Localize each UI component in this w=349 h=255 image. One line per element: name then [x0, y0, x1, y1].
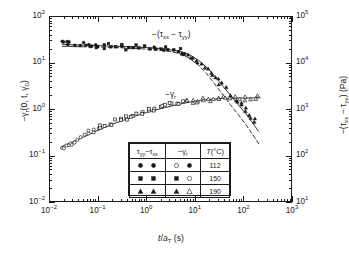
legend-header-temperature: T(°C)	[201, 144, 230, 159]
y-right-tick-label: 105	[296, 12, 320, 20]
x-minor-tick-top	[83, 16, 84, 19]
y-minor-tick-left	[49, 73, 52, 74]
x-minor-tick-top	[72, 16, 73, 19]
y-minor-tick-left	[49, 26, 52, 27]
legend-stress-symbols	[130, 172, 166, 185]
legend-row: 150	[130, 172, 230, 185]
y-minor-tick-right	[289, 21, 292, 22]
y-major-tick-left	[49, 16, 55, 17]
legend-gamma-symbols	[165, 172, 201, 185]
x-minor-tick	[83, 199, 84, 202]
y-minor-tick-right	[289, 87, 292, 88]
x-minor-tick-top	[193, 16, 194, 19]
x-minor-tick-top	[169, 16, 170, 19]
series--(τ_xx - τ_yy), 112 °C	[61, 40, 98, 49]
y-minor-tick-right	[289, 111, 292, 112]
x-tick-label: 10−2	[35, 207, 63, 215]
x-minor-tick	[229, 199, 230, 202]
x-minor-tick-top	[112, 16, 113, 19]
legend-gamma-symbols	[165, 185, 201, 198]
x-minor-tick-top	[281, 16, 282, 19]
x-minor-tick-top	[141, 16, 142, 19]
curve-model-solid-upper	[62, 44, 258, 131]
legend-gamma-symbols	[165, 159, 201, 172]
y-left-tick-label: 10−2	[23, 198, 45, 206]
x-minor-tick	[175, 199, 176, 202]
x-minor-tick-top	[161, 16, 162, 19]
y-minor-tick-left	[49, 81, 52, 82]
x-minor-tick	[87, 199, 88, 202]
x-minor-tick	[267, 199, 268, 202]
y-right-tick-label: 104	[296, 58, 320, 66]
y-minor-tick-left	[49, 95, 52, 96]
x-minor-tick-top	[190, 16, 191, 19]
x-major-tick-top	[146, 16, 147, 22]
legend-temperature-value: 190	[201, 185, 230, 198]
y-minor-tick-right	[289, 18, 292, 19]
x-minor-tick-top	[224, 16, 225, 19]
x-major-tick-top	[98, 16, 99, 22]
x-minor-tick-top	[241, 16, 242, 19]
y-major-tick-left	[49, 202, 55, 203]
y-minor-tick-right	[289, 119, 292, 120]
legend-header-temperature-text: T(°C)	[206, 147, 224, 156]
x-minor-tick	[161, 199, 162, 202]
x-minor-tick	[233, 199, 234, 202]
x-minor-tick	[72, 199, 73, 202]
x-minor-tick	[281, 199, 282, 202]
legend-stress-symbols	[130, 159, 166, 172]
x-minor-tick-top	[93, 16, 94, 19]
y-major-tick-right	[286, 63, 292, 64]
y-minor-tick-left	[49, 40, 52, 41]
y-minor-tick-right	[289, 142, 292, 143]
y-minor-tick-right	[289, 95, 292, 96]
y-minor-tick-right	[289, 30, 292, 31]
y-minor-tick-left	[49, 158, 52, 159]
x-minor-tick-top	[184, 16, 185, 19]
x-minor-tick-top	[87, 16, 88, 19]
series--(τ_xx - τ_yy), 190 °C	[180, 52, 257, 124]
x-minor-tick	[241, 199, 242, 202]
annotation-recoverable-strain-text: −γr	[165, 89, 176, 99]
y-minor-tick-right	[289, 26, 292, 27]
x-minor-tick	[93, 199, 94, 202]
x-minor-tick	[193, 199, 194, 202]
x-minor-tick	[190, 199, 191, 202]
x-minor-tick-top	[90, 16, 91, 19]
legend-header-row: τyy−τxx −γr T(°C)	[130, 144, 230, 159]
y-minor-tick-left	[49, 35, 52, 36]
x-major-tick	[292, 196, 293, 202]
x-major-tick	[98, 196, 99, 202]
x-minor-tick-top	[95, 16, 96, 19]
x-major-tick-top	[243, 16, 244, 22]
x-minor-tick-top	[229, 16, 230, 19]
y-major-tick-left	[49, 63, 55, 64]
legend-header-gamma-text: −γr	[178, 147, 188, 156]
y-major-tick-left	[49, 156, 55, 157]
y-right-title-text: −(τxx − τyy) (Pa)	[338, 76, 348, 134]
y-right-tick-label: 101	[296, 198, 320, 206]
y-minor-tick-right	[289, 114, 292, 115]
x-minor-tick	[236, 199, 237, 202]
y-minor-tick-right	[289, 158, 292, 159]
y-minor-tick-left	[49, 87, 52, 88]
y-axis-right-title: −(τxx − τyy) (Pa)	[338, 45, 348, 165]
y-minor-tick-right	[289, 160, 292, 161]
x-minor-tick	[224, 199, 225, 202]
x-tick-label: 101	[181, 207, 209, 215]
annotation-recoverable-strain: −γr	[165, 89, 176, 99]
y-minor-tick-right	[289, 116, 292, 117]
y-minor-tick-left	[49, 114, 52, 115]
y-major-tick-left	[49, 109, 55, 110]
legend-temperature-value: 112	[201, 159, 230, 172]
x-minor-tick-top	[277, 16, 278, 19]
x-minor-tick	[144, 199, 145, 202]
x-minor-tick	[141, 199, 142, 202]
y-minor-tick-right	[289, 81, 292, 82]
y-minor-tick-left	[49, 166, 52, 167]
y-minor-tick-left	[49, 76, 52, 77]
legend-box: τyy−τxx −γr T(°C) 112 150 190	[128, 142, 231, 196]
y-minor-tick-right	[289, 180, 292, 181]
x-minor-tick	[121, 199, 122, 202]
x-minor-tick	[169, 199, 170, 202]
